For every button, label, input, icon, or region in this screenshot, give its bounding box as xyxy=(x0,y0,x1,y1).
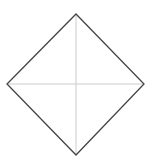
diamond-diagram xyxy=(0,0,155,163)
diagram-canvas xyxy=(0,0,155,163)
